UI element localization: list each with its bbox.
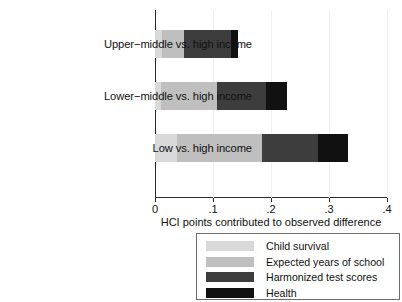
legend-label: Expected years of school <box>266 256 384 268</box>
category-label-2: Lower−middle vs. high income <box>104 90 252 102</box>
tick-mark <box>387 198 388 202</box>
legend-label: Child survival <box>266 240 329 252</box>
tick-label: .4 <box>382 203 391 215</box>
legend-item: Expected years of school <box>197 255 399 270</box>
tick-mark <box>155 198 156 202</box>
bar-segment-health <box>266 82 287 110</box>
gridline <box>387 10 388 198</box>
legend-label: Harmonized test scores <box>266 271 377 283</box>
tick-mark <box>213 198 214 202</box>
legend-swatch <box>206 257 254 267</box>
legend-item: Child survival <box>197 239 399 254</box>
legend-swatch <box>206 272 254 282</box>
legend-item: Harmonized test scores <box>197 270 399 285</box>
category-label-3: Low vs. high income <box>153 142 252 154</box>
tick-label: 0 <box>152 203 158 215</box>
legend: Child survivalExpected years of schoolHa… <box>196 233 400 300</box>
tick-label: .1 <box>208 203 217 215</box>
legend-swatch <box>206 288 254 298</box>
bar-segment-harmonized-test-scores <box>262 134 318 162</box>
x-axis-title: HCI points contributed to observed diffe… <box>155 216 387 228</box>
hci-decomposition-chart: Upper−middle vs. high incomeLower−middle… <box>0 0 402 302</box>
legend-swatch <box>206 241 254 251</box>
legend-label: Health <box>266 287 297 299</box>
bar-segment-health <box>318 134 348 162</box>
tick-label: .3 <box>324 203 333 215</box>
tick-mark <box>271 198 272 202</box>
tick-mark <box>329 198 330 202</box>
gridline <box>329 10 330 198</box>
legend-item: Health <box>197 286 399 301</box>
tick-label: .2 <box>266 203 275 215</box>
category-label-1: Upper−middle vs. high income <box>104 38 252 50</box>
